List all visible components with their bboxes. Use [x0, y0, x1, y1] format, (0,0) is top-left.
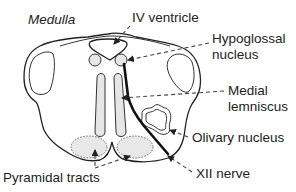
left-peduncle	[29, 52, 54, 95]
label-pyramidal: Pyramidal tracts	[3, 170, 100, 185]
hypoglossal-nucleus-left	[89, 54, 101, 66]
medial-lemniscus-right	[114, 74, 126, 137]
pyramid-left	[71, 136, 107, 158]
label-iv-ventricle: IV ventricle	[132, 10, 199, 25]
leader-xii-nerve	[168, 156, 192, 172]
label-hypoglossal-1: Hypoglossal	[212, 31, 286, 46]
label-medial-1: Medial	[228, 83, 268, 98]
right-peduncle	[167, 54, 194, 92]
pyramid-right	[117, 136, 153, 158]
label-medial-2: lemniscus	[228, 99, 288, 114]
label-olivary: Olivary nucleus	[192, 130, 285, 145]
label-xii-nerve: XII nerve	[196, 166, 250, 181]
leader-medial-lemniscus	[122, 91, 224, 98]
label-hypoglossal-2: nucleus	[212, 47, 259, 62]
leader-pyramidal-right	[95, 156, 130, 168]
medial-lemniscus-left	[95, 74, 105, 137]
diagram-title: Medulla	[28, 12, 76, 27]
medulla-diagram: Medulla IV ventricle Hypoglossal nucleus…	[0, 0, 296, 192]
